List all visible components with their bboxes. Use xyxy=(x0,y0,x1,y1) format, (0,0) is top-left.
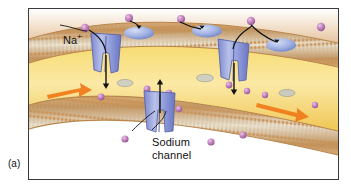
na-ion-label: Na+ xyxy=(63,32,82,46)
figure-panel: Na+ Sodium channel (a) xyxy=(0,0,351,189)
sodium-channel-label: Sodium channel xyxy=(152,136,191,161)
diagram-frame: Na+ Sodium channel xyxy=(28,8,339,180)
sodium-channel-label-line1: Sodium xyxy=(152,136,191,149)
sodium-channel-label-line2: channel xyxy=(152,149,191,162)
panel-label: (a) xyxy=(8,158,20,169)
